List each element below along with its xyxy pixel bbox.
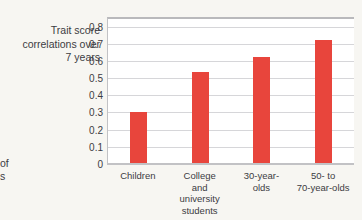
x-axis-category-label-line: Children bbox=[107, 170, 169, 182]
x-axis-category-label-line: olds bbox=[231, 182, 293, 194]
bar-chart-figure: Trait score correlations over 7 years of… bbox=[0, 0, 362, 220]
y-axis-tick-label: 0.7 bbox=[89, 38, 103, 49]
y-axis-label-line-1: Trait score bbox=[4, 24, 100, 38]
x-axis-baseline bbox=[108, 163, 354, 165]
x-axis-category-label-line: 30-year- bbox=[231, 170, 293, 182]
cropped-caption-fragment-2: s bbox=[0, 170, 5, 184]
y-axis-tick-label: 0.8 bbox=[89, 21, 103, 32]
y-axis-label-line-2: correlations over bbox=[4, 38, 100, 52]
x-axis-category-label-line: university bbox=[169, 193, 231, 205]
y-axis-label: Trait score correlations over 7 years bbox=[4, 24, 100, 65]
bar-slot bbox=[108, 19, 170, 165]
y-axis-tick-label: 0.3 bbox=[89, 107, 103, 118]
bar bbox=[315, 40, 332, 165]
bar-slot bbox=[170, 19, 232, 165]
y-axis-tick-label: 0.2 bbox=[89, 124, 103, 135]
bar-series bbox=[108, 19, 354, 165]
bar-slot bbox=[293, 19, 355, 165]
bar-slot bbox=[231, 19, 293, 165]
x-axis-category-label-line: 50- to bbox=[292, 170, 354, 182]
x-axis-category-label: 50- to70-year-olds bbox=[292, 170, 354, 216]
y-axis-label-line-3: 7 years bbox=[4, 51, 100, 65]
bar bbox=[192, 72, 209, 165]
bar bbox=[253, 57, 270, 165]
y-axis-tick-label: 0.4 bbox=[89, 90, 103, 101]
y-axis-tick-label: 0 bbox=[97, 159, 103, 170]
x-axis-category-label-line: 70-year-olds bbox=[292, 182, 354, 194]
bar bbox=[130, 112, 147, 165]
x-axis-category-label-line: students bbox=[169, 205, 231, 217]
x-axis-labels: ChildrenCollegeanduniversitystudents30-y… bbox=[107, 170, 354, 216]
plot-area: 00.10.20.30.40.50.60.70.8 bbox=[107, 17, 354, 165]
x-axis-category-label: 30-year-olds bbox=[231, 170, 293, 216]
y-axis-tick-label: 0.1 bbox=[89, 141, 103, 152]
cropped-caption-fragment-1: of bbox=[0, 157, 9, 171]
y-axis-tick-label: 0.5 bbox=[89, 73, 103, 84]
x-axis-category-label: Collegeanduniversitystudents bbox=[169, 170, 231, 216]
x-axis-category-label-line: and bbox=[169, 182, 231, 194]
y-axis-tick-label: 0.6 bbox=[89, 55, 103, 66]
x-axis-category-label: Children bbox=[107, 170, 169, 216]
x-axis-category-label-line: College bbox=[169, 170, 231, 182]
